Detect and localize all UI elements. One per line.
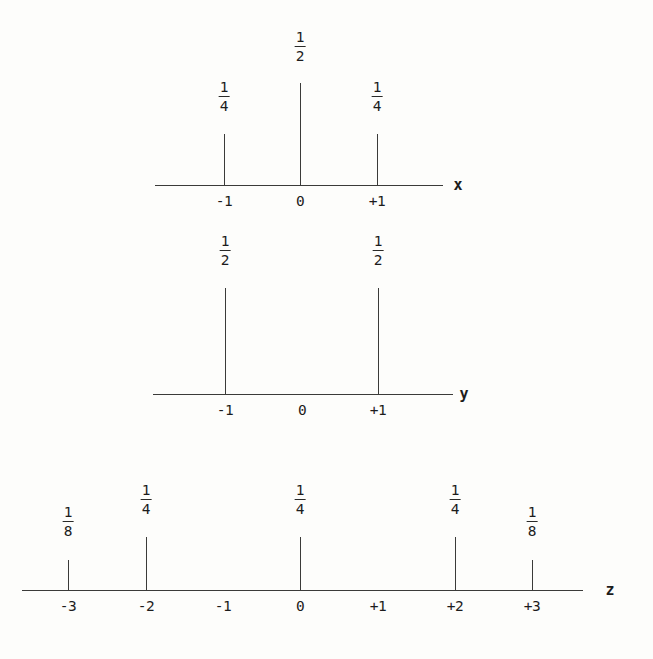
tick-label-z: -1	[215, 598, 231, 614]
value-label-y: 12	[220, 234, 231, 267]
value-label-y: 12	[373, 234, 384, 267]
stem-y	[225, 288, 226, 394]
tick-label-z: 0	[296, 598, 304, 614]
fraction-numerator: 1	[63, 505, 74, 522]
axis-name-z: z	[605, 581, 614, 599]
fraction-numerator: 1	[219, 80, 230, 97]
stem-x	[377, 134, 378, 185]
value-label-z: 18	[527, 505, 538, 538]
axis-line-z	[22, 590, 583, 591]
tick-label-y: +1	[370, 402, 386, 418]
fraction-numerator: 1	[372, 80, 383, 97]
stem-x	[224, 134, 225, 185]
fraction-numerator: 1	[450, 483, 461, 500]
tick-label-x: +1	[369, 193, 385, 209]
value-label-x: 12	[295, 30, 306, 63]
tick-label-z: -3	[60, 598, 76, 614]
fraction-denominator: 4	[141, 500, 152, 517]
axis-line-y	[153, 394, 453, 395]
fraction-denominator: 8	[527, 522, 538, 539]
stem-x	[300, 83, 301, 185]
fraction-numerator: 1	[141, 483, 152, 500]
fraction-numerator: 1	[295, 30, 306, 47]
tick-label-z: -2	[138, 598, 154, 614]
fraction-numerator: 1	[295, 483, 306, 500]
value-label-z: 18	[63, 505, 74, 538]
axis-line-x	[155, 185, 443, 186]
stem-z	[455, 537, 456, 590]
fraction-denominator: 4	[295, 500, 306, 517]
tick-label-z: +3	[524, 598, 540, 614]
fraction-denominator: 2	[295, 47, 306, 64]
stem-z	[68, 560, 69, 590]
tick-label-x: -1	[216, 193, 232, 209]
tick-label-x: 0	[296, 193, 304, 209]
stem-z	[532, 560, 533, 590]
tick-label-y: -1	[217, 402, 233, 418]
axis-name-y: y	[459, 385, 468, 403]
value-label-z: 14	[141, 483, 152, 516]
value-label-x: 14	[219, 80, 230, 113]
tick-label-z: +1	[370, 598, 386, 614]
value-label-z: 14	[295, 483, 306, 516]
stem-z	[300, 537, 301, 590]
fraction-numerator: 1	[527, 505, 538, 522]
stem-plot-figure: x141214-10+1y1212-10+1z1814141418-3-2-10…	[0, 0, 653, 659]
fraction-numerator: 1	[373, 234, 384, 251]
fraction-denominator: 4	[450, 500, 461, 517]
tick-label-z: +2	[447, 598, 463, 614]
fraction-numerator: 1	[220, 234, 231, 251]
axis-name-x: x	[453, 176, 462, 194]
fraction-denominator: 2	[373, 251, 384, 268]
fraction-denominator: 4	[372, 97, 383, 114]
value-label-x: 14	[372, 80, 383, 113]
fraction-denominator: 2	[220, 251, 231, 268]
tick-label-y: 0	[298, 402, 306, 418]
stem-y	[378, 288, 379, 394]
fraction-denominator: 8	[63, 522, 74, 539]
stem-z	[146, 537, 147, 590]
value-label-z: 14	[450, 483, 461, 516]
fraction-denominator: 4	[219, 97, 230, 114]
